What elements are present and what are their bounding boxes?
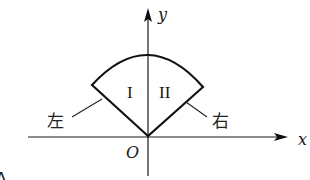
corner-label: A [0, 169, 7, 180]
x-axis: x [28, 130, 307, 149]
origin-label: O [126, 143, 139, 162]
left-leader-line [72, 99, 102, 117]
right-leader-line [186, 102, 207, 117]
y-axis-label: y [157, 5, 168, 24]
x-axis-label: x [298, 130, 307, 149]
sector-diagram: x y O I II 左 右 A [0, 0, 310, 180]
region-label-right: II [159, 83, 171, 102]
right-side-label: 右 [212, 111, 229, 131]
region-label-left: I [127, 83, 133, 102]
left-side-label: 左 [47, 111, 64, 131]
